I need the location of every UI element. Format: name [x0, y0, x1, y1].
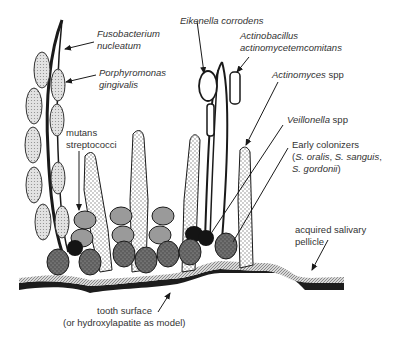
label-veillonella-spp: spp	[330, 114, 348, 125]
actinomyces-arrow	[246, 82, 278, 145]
label-early-colonizers-line2: (S. oralis, S. sanguis,	[292, 151, 382, 162]
porphyromonas-arrow	[66, 75, 96, 82]
species-s-oralis: S. oralis	[295, 151, 330, 162]
label-veillonella: Veillonella spp	[287, 114, 348, 125]
label-fusobacterium-line1: Fusobacterium	[97, 28, 160, 39]
label-actinobacillus-line1: Actinobacillus	[239, 30, 298, 41]
paren-close: )	[337, 163, 340, 174]
fusobacterium-arrow	[65, 42, 94, 49]
label-pellicle-line1: acquired salivary	[295, 224, 367, 235]
label-eikenella: Eikenella corrodens	[180, 15, 264, 26]
actinobacillus-cell	[230, 72, 240, 104]
tooth-arrow	[158, 293, 170, 312]
species-s-gordonii: S. gordonii	[292, 163, 338, 174]
label-mutans-line1: mutans	[66, 127, 97, 138]
species-s-sanguis: S. sanguis	[335, 151, 380, 162]
actinomyces-rod	[238, 147, 253, 268]
label-actinomyces-genus: Actinomyces	[271, 69, 326, 80]
actinobacillus-arrow	[237, 57, 249, 72]
label-tooth-line1: tooth surface	[97, 305, 152, 316]
eikenella-arrow	[197, 21, 204, 73]
label-porphyromonas-line1: Porphyromonas	[99, 67, 166, 78]
dental-plaque-biofilm-diagram: Fusobacterium nucleatum Porphyromonas gi…	[0, 0, 402, 344]
label-tooth-line2: (or hydroxylapatite as model)	[63, 317, 186, 328]
label-fusobacterium-line2: nucleatum	[97, 40, 141, 51]
eikenella-corrodens-cell	[199, 71, 217, 136]
label-mutans-line2: streptococci	[66, 139, 117, 150]
label-pellicle-line2: pellicle	[295, 236, 324, 247]
label-porphyromonas-line2: gingivalis	[99, 79, 138, 90]
comma: ,	[379, 151, 382, 162]
label-actinobacillus-line2: actinomycetemcomitans	[240, 42, 342, 53]
label-actinomyces-spp: spp	[326, 69, 344, 80]
label-early-colonizers-line1: Early colonizers	[292, 139, 359, 150]
label-veillonella-genus: Veillonella	[287, 114, 330, 125]
label-actinomyces: Actinomyces spp	[271, 69, 344, 80]
label-early-colonizers-line3: S. gordonii)	[292, 163, 341, 174]
